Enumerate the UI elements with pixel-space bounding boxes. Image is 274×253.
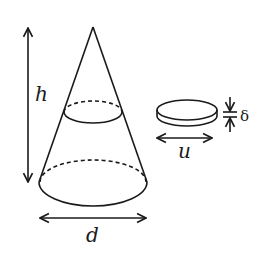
cone-section-back-dashed — [64, 101, 122, 112]
cone-right-edge — [93, 27, 147, 182]
diameter-label: d — [86, 223, 99, 247]
disk-top-face — [157, 100, 217, 120]
height-dimension: h — [28, 28, 48, 182]
diagram-canvas: h d u δ — [0, 0, 274, 253]
thickness-label: δ — [240, 107, 249, 125]
disk — [157, 100, 217, 126]
diameter-dimension: d — [40, 218, 146, 247]
cone-section-front — [64, 112, 122, 123]
height-label: h — [35, 82, 48, 106]
cone-base-front — [39, 182, 147, 206]
disk-diameter-dimension: u — [157, 138, 212, 163]
disk-diameter-label: u — [178, 139, 191, 163]
cone-base-back-dashed — [40, 160, 146, 182]
disk-thickness-dimension: δ — [223, 97, 249, 132]
cone — [39, 27, 147, 206]
